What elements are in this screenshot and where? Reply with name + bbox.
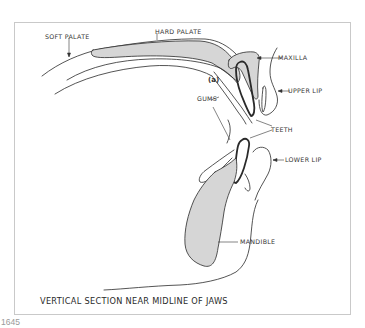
label-maxilla: MAXILLA <box>278 55 307 61</box>
label-teeth: TEETH <box>271 127 293 133</box>
label-lower-lip: LOWER LIP <box>285 157 322 163</box>
soft-palate-lower-2 <box>55 65 212 94</box>
arrow-upper-lip <box>278 90 282 93</box>
leader-gums-lower <box>213 107 230 140</box>
lower-lip-outline <box>253 147 271 200</box>
figure-caption: VERTICAL SECTION NEAR MIDLINE OF JAWS <box>40 296 228 306</box>
label-gums: GUMS <box>197 96 217 102</box>
leader-teeth-lower <box>250 130 272 138</box>
jaw-section-diagram <box>0 0 365 328</box>
label-marker-a: (a) <box>208 77 219 84</box>
mandible-bone <box>185 158 237 266</box>
chin-outline <box>104 200 258 290</box>
figure-number: 1645 <box>1 317 20 327</box>
arrow-soft-palate <box>68 53 71 57</box>
upper-lip-inner <box>262 86 266 112</box>
leader-teeth-upper <box>256 120 272 126</box>
label-upper-lip: UPPER LIP <box>288 88 322 94</box>
label-mandible: MANDIBLE <box>240 239 275 245</box>
arrow-lower-lip <box>273 159 277 162</box>
label-hard-palate: HARD PALATE <box>155 29 202 35</box>
lower-lip-inner <box>245 174 250 191</box>
label-soft-palate: SOFT PALATE <box>45 34 90 40</box>
